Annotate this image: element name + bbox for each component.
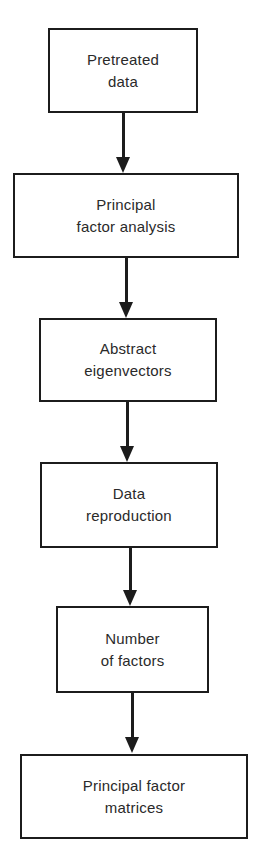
node-abstract-eigenvectors: Abstract eigenvectors [39,318,217,402]
node-label: Data reproduction [86,483,172,527]
node-pretreated-data: Pretreated data [48,28,198,113]
node-label: Pretreated data [87,49,159,93]
node-label: Number of factors [101,628,165,672]
arrow-down-icon [116,112,130,174]
arrow-down-icon [125,692,139,754]
arrow-down-icon [120,401,134,463]
node-principal-factor-analysis: Principal factor analysis [13,173,239,258]
node-label: Abstract eigenvectors [84,338,171,382]
node-number-of-factors: Number of factors [56,606,209,693]
arrow-down-icon [119,257,133,319]
node-label: Principal factor analysis [77,194,176,238]
flowchart: Pretreated data Principal factor analysi… [0,0,256,864]
node-data-reproduction: Data reproduction [40,462,218,548]
node-label: Principal factor matrices [83,775,185,819]
arrow-down-icon [123,547,137,607]
node-principal-factor-matrices: Principal factor matrices [20,754,248,839]
